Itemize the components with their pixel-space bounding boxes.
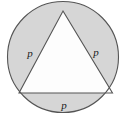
segment-label-left: p [27, 48, 33, 59]
segment-label-bottom: p [61, 100, 67, 111]
segment-label-right: p [93, 47, 99, 58]
geometry-figure: p p p [0, 0, 127, 128]
